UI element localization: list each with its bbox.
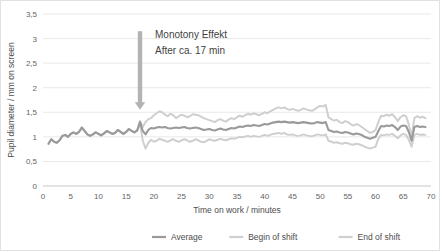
chart-frame: [0, 0, 440, 251]
pupil-diameter-chart: 00,511,522,533,5051015202530354045505560…: [0, 0, 441, 252]
